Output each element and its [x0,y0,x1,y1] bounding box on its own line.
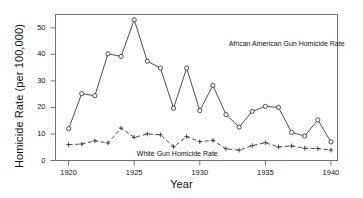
x-tick-label: 1940 [318,168,344,177]
y-tick-label: 30 [28,76,46,85]
series-african-american [67,18,334,144]
x-axis-title: Year [0,178,363,190]
y-tick-label: 40 [28,49,46,58]
x-tick-label: 1935 [252,168,278,177]
x-tick-label: 1925 [121,168,147,177]
series-annotation-african-american: African American Gun Homicide Rate [229,40,345,47]
y-tick-label: 0 [28,156,46,165]
chart-plot-area [0,0,363,198]
y-tick-label: 20 [28,102,46,111]
series-white [66,126,333,153]
y-tick-label: 50 [28,23,46,32]
data-series-group [66,18,333,153]
y-axis-title: Homicide Rate (per 100,000) [13,24,25,168]
x-tick-label: 1930 [187,168,213,177]
x-tick-label: 1920 [56,168,82,177]
y-tick-label: 10 [28,129,46,138]
series-annotation-white: White Gun Homicide Rate [137,150,218,157]
chart-figure: Homicide Rate (per 100,000) Year 0102030… [0,0,363,198]
